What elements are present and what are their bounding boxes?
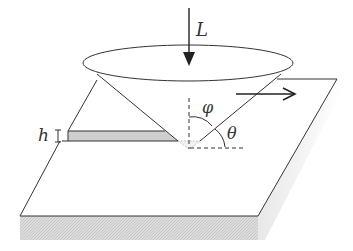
groove-wall bbox=[68, 131, 178, 141]
scratch-test-diagram: h φ θ L bbox=[0, 0, 353, 251]
phi-label: φ bbox=[202, 98, 214, 117]
theta-label: θ bbox=[227, 124, 237, 143]
plate-front-face bbox=[20, 216, 258, 240]
depth-marker: h bbox=[38, 125, 61, 145]
depth-label: h bbox=[38, 125, 49, 145]
load-label: L bbox=[195, 19, 208, 40]
